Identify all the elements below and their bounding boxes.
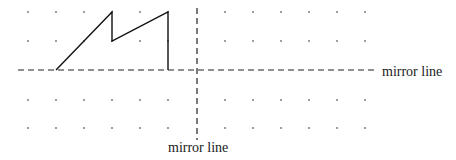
grid-dot [27,11,29,13]
grid-dot [111,99,113,101]
grid-dot [252,127,254,129]
grid-dot [224,127,226,129]
grid-dot [336,127,338,129]
grid-dot [139,40,141,42]
grid-dot [252,99,254,101]
grid-dot [167,127,169,129]
grid-dot [308,40,310,42]
grid-dot [83,11,85,13]
grid-dot [55,99,57,101]
grid-dot [224,40,226,42]
grid-dot [364,40,366,42]
horizontal-mirror-line-label: mirror line [382,65,442,79]
grid-dot [280,127,282,129]
grid-dot [139,127,141,129]
grid-dot [55,127,57,129]
grid-dot [27,40,29,42]
grid-dot [280,11,282,13]
grid-dot [336,40,338,42]
grid-dot [252,40,254,42]
grid-dot [308,11,310,13]
grid-dot [139,11,141,13]
grid-dot [252,11,254,13]
grid-dot [224,11,226,13]
diagram-canvas [0,0,456,160]
grid-dot [280,40,282,42]
grid-dot [55,11,57,13]
grid-dot [83,127,85,129]
grid-dot [364,99,366,101]
grid-dot [364,127,366,129]
grid-dot [83,99,85,101]
grid-dot [224,99,226,101]
grid-dot [336,99,338,101]
grid-dot [27,127,29,129]
vertical-mirror-line-label: mirror line [168,141,228,155]
grid-dot [308,99,310,101]
shape-outline [56,12,168,70]
grid-dot [139,99,141,101]
grid-dot [111,127,113,129]
grid-dot [55,40,57,42]
grid-dot [308,127,310,129]
grid-dot [336,11,338,13]
grid-dot [280,99,282,101]
grid-dot [167,99,169,101]
grid-dot [364,11,366,13]
grid-dot [27,99,29,101]
